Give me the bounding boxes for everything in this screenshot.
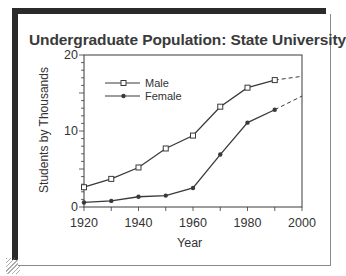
dot-marker-icon [273, 108, 277, 112]
legend-dot-icon [121, 94, 125, 98]
dot-marker-icon [245, 120, 249, 124]
dot-marker-icon [191, 186, 195, 190]
square-marker-icon [136, 165, 141, 170]
x-tick-label: 1940 [125, 216, 153, 230]
square-marker-icon [109, 176, 114, 181]
y-axis-label: Students by Thousands [37, 67, 51, 193]
dot-marker-icon [218, 152, 222, 156]
square-marker-icon [245, 85, 250, 90]
square-marker-icon [163, 146, 168, 151]
plot-frame [84, 55, 302, 207]
legend-square-icon [121, 81, 126, 86]
y-tick-label: 20 [64, 48, 78, 62]
legend-label-female: Female [145, 90, 182, 102]
female-projection-line [275, 96, 302, 110]
male-projection-line [275, 76, 302, 80]
dot-marker-icon [136, 195, 140, 199]
x-tick-label: 1980 [234, 216, 262, 230]
x-tick-label: 1920 [70, 216, 98, 230]
dot-marker-icon [82, 200, 86, 204]
dot-marker-icon [109, 199, 113, 203]
x-tick-label: 1960 [179, 216, 207, 230]
x-axis-label: Year [177, 236, 202, 250]
x-tick-label: 2000 [288, 216, 316, 230]
y-tick-label: 0 [71, 200, 78, 214]
legend-label-male: Male [145, 77, 169, 89]
y-tick-label: 10 [64, 124, 78, 138]
square-marker-icon [218, 104, 223, 109]
square-marker-icon [82, 185, 87, 190]
square-marker-icon [191, 133, 196, 138]
dot-marker-icon [164, 193, 168, 197]
square-marker-icon [272, 78, 277, 83]
